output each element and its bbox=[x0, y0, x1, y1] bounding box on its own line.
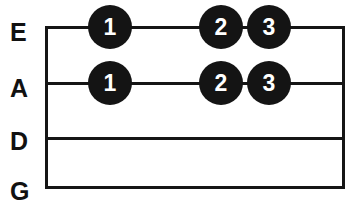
finger-dot-a-2[interactable]: 2 bbox=[199, 61, 243, 105]
fretboard bbox=[45, 26, 345, 189]
finger-dot-a-1[interactable]: 1 bbox=[88, 61, 132, 105]
string-line-d bbox=[45, 137, 345, 140]
nut-line bbox=[45, 26, 48, 189]
finger-dot-e-3[interactable]: 3 bbox=[247, 5, 291, 49]
string-label-e: E bbox=[10, 20, 27, 45]
fretboard-end-line bbox=[342, 26, 345, 189]
finger-dot-a-3[interactable]: 3 bbox=[247, 61, 291, 105]
string-label-g: G bbox=[10, 179, 29, 204]
string-label-a: A bbox=[10, 76, 28, 101]
chord-diagram-canvas: E A D G 1 2 3 1 2 3 bbox=[0, 0, 360, 212]
string-label-d: D bbox=[10, 129, 28, 154]
finger-dot-e-2[interactable]: 2 bbox=[199, 5, 243, 49]
string-line-g bbox=[45, 186, 345, 189]
finger-dot-e-1[interactable]: 1 bbox=[88, 5, 132, 49]
